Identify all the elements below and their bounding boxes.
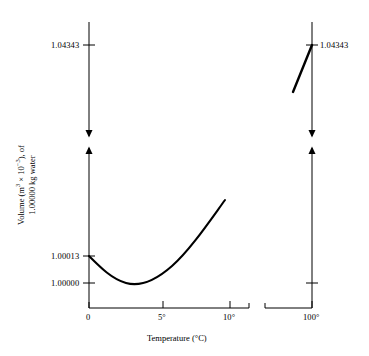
data-curve-high-temperature xyxy=(293,45,312,92)
y-axis-title-line1: Volume (m3 × 10−3), of xyxy=(16,145,26,225)
x-tick-label-100: 100° xyxy=(303,312,320,322)
y-tick-label-1-04343-right: 1.04343 xyxy=(320,40,348,50)
y-tick-label-1-04343-left: 1.04343 xyxy=(51,40,79,50)
x-tick-label-5: 5° xyxy=(158,312,166,322)
data-curve-low-temperature xyxy=(89,200,225,284)
chart-figure: Volume (m3 × 10−3), of 1.00000 kg water xyxy=(0,0,369,356)
y-axis-title-text-pre: Volume (m xyxy=(16,187,26,225)
y-tick-label-1-00000: 1.00000 xyxy=(51,278,79,288)
y-axis-break-arrow-lower-left xyxy=(86,147,93,155)
x-tick-label-10: 10° xyxy=(223,312,235,322)
y-axis-title-sup-cubed: 3 xyxy=(14,184,21,187)
y-axis-break-arrow-lower-right xyxy=(309,147,316,155)
y-axis-break-arrow-upper-right xyxy=(309,130,316,138)
y-axis-title-line2: 1.00000 kg water xyxy=(27,155,37,214)
y-tick-label-1-00013: 1.00013 xyxy=(51,251,79,261)
y-axis-title-text-mid: × 10 xyxy=(16,166,26,184)
y-axis-title-sup-exp: −3 xyxy=(14,159,21,166)
y-axis-break-arrow-upper-left xyxy=(86,130,93,138)
x-axis-title: Temperature (°C) xyxy=(147,333,207,343)
y-axis-title-text-post: ), of xyxy=(16,145,26,159)
x-tick-label-0: 0 xyxy=(86,312,90,322)
y-axis-title: Volume (m3 × 10−3), of 1.00000 kg water xyxy=(10,130,40,240)
plot-area xyxy=(0,0,369,356)
